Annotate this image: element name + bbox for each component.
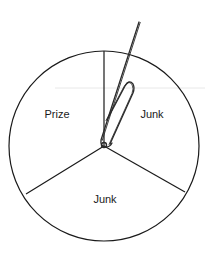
spinner-svg — [0, 0, 209, 262]
paperclip-icon — [101, 22, 140, 148]
divider-lower-right — [104, 146, 185, 192]
section-label-prize: Prize — [44, 109, 69, 120]
section-label-junk-bottom: Junk — [93, 194, 116, 205]
divider-lower-left — [26, 146, 104, 194]
spinner-diagram: Prize Junk Junk — [0, 0, 209, 262]
section-label-junk-right: Junk — [140, 109, 163, 120]
